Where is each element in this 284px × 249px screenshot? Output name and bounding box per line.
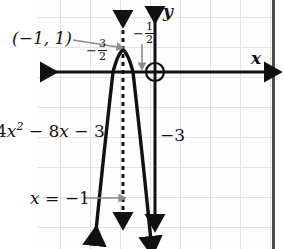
equation-label: 4x2 − 8x − 3: [0, 121, 105, 140]
y-intercept-label: −3: [160, 127, 185, 144]
parabola-figure: (−1, 1) −32 −12 y x 4x2 − 8x − 3 −3 x = …: [0, 0, 284, 249]
minus-sign: −: [133, 27, 144, 40]
x-axis-label: x: [251, 50, 261, 67]
x-intercept-right-label: −12: [133, 21, 154, 45]
x-intercept-left-label: −32: [86, 38, 107, 62]
y-axis-label: y: [163, 3, 173, 20]
equation-variable: x: [7, 121, 17, 141]
minus-sign: −: [86, 44, 97, 57]
axis-of-symmetry-variable: x: [30, 188, 40, 208]
equation-constant-term: − 3: [69, 121, 105, 141]
equation-coefficient: 4: [0, 121, 7, 141]
fraction-three-halves: 32: [98, 38, 107, 62]
axis-of-symmetry-equation: = −1: [40, 188, 90, 208]
equation-variable-2: x: [59, 121, 69, 141]
fraction-one-half: 12: [145, 21, 154, 45]
axis-of-symmetry-label: x = −1: [30, 190, 90, 207]
vertex-label: (−1, 1): [12, 30, 72, 47]
equation-middle-term: − 8: [23, 121, 59, 141]
